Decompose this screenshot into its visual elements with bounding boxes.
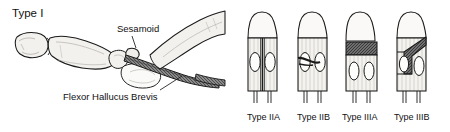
flexor-hallucus-brevis-annotation-label: Flexor Hallucus Brevis xyxy=(63,92,158,102)
diagram-type-iia xyxy=(248,12,277,103)
diagram-label-type-iiib: Type IIIB xyxy=(394,113,430,122)
diagram-type-iiia xyxy=(346,12,377,103)
distal-phalanx xyxy=(15,33,48,58)
sesamoid-annotation-label: Sesamoid xyxy=(117,24,159,34)
diagram-label-type-iia: Type IIA xyxy=(247,113,280,122)
diagram-label-type-iiia: Type IIIA xyxy=(342,113,378,122)
sesamoid-classification-figure xyxy=(0,0,450,132)
diagram-label-type-iib: Type IIB xyxy=(297,113,330,122)
diagram-type-iib xyxy=(298,12,327,103)
diagram-type-iiib xyxy=(397,12,426,103)
lesion-transverse-iiia xyxy=(346,42,377,55)
type-i-label: Type I xyxy=(12,8,43,20)
